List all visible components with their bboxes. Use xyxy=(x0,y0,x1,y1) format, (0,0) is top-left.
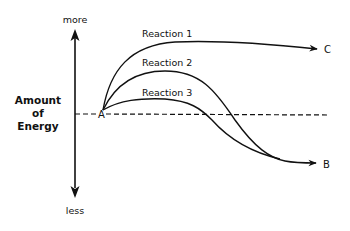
baseline-dash xyxy=(106,114,330,115)
axis-top-label: more xyxy=(63,14,88,25)
point-b-label: B xyxy=(323,159,330,170)
axis-bottom-label: less xyxy=(66,205,84,216)
reaction-1-label: Reaction 1 xyxy=(142,28,192,39)
axis-title-line-2: of xyxy=(32,107,44,119)
energy-diagram: more less Amount of Energy A Reaction 1 … xyxy=(0,0,350,231)
point-c-label: C xyxy=(324,44,331,55)
axis-title: Amount of Energy xyxy=(15,94,61,132)
reaction-2-label: Reaction 2 xyxy=(142,57,192,68)
axis-title-line-3: Energy xyxy=(17,120,58,132)
reaction-3-curve xyxy=(103,99,280,159)
reaction-3-label: Reaction 3 xyxy=(142,87,192,98)
axis-title-line-1: Amount xyxy=(15,94,61,106)
